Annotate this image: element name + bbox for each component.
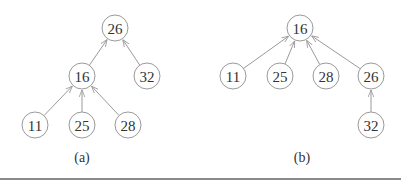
union-find-tree-diagram: 261632112528161125282632 (a)(b)	[0, 0, 401, 181]
nodes-layer: 261632112528161125282632	[22, 15, 384, 138]
tree-node-16: 16	[69, 63, 95, 89]
node-label: 32	[140, 69, 155, 85]
node-label: 25	[273, 69, 288, 85]
subfigure-caption: (a)	[74, 150, 90, 166]
parent-pointer-arrow	[307, 40, 320, 64]
tree-node-28: 28	[115, 112, 141, 138]
node-label: 11	[226, 69, 240, 85]
tree-node-26: 26	[102, 15, 128, 41]
subfigure-caption: (b)	[294, 150, 311, 166]
parent-pointer-arrow	[123, 40, 140, 66]
parent-pointer-arrow	[44, 86, 72, 116]
parent-pointer-arrow	[89, 40, 107, 66]
node-label: 28	[121, 118, 136, 134]
node-label: 28	[319, 69, 334, 85]
tree-node-32: 32	[134, 63, 160, 89]
node-label: 26	[108, 21, 124, 37]
captions-layer: (a)(b)	[74, 150, 310, 166]
node-label: 32	[364, 118, 379, 134]
tree-node-11: 11	[22, 112, 48, 138]
node-label: 11	[28, 118, 42, 134]
node-label: 16	[293, 21, 309, 37]
tree-node-25: 25	[267, 63, 293, 89]
tree-node-11: 11	[220, 63, 246, 89]
parent-pointer-arrow	[285, 41, 295, 64]
parent-pointer-arrow	[92, 86, 120, 115]
node-label: 26	[364, 69, 380, 85]
tree-node-25: 25	[69, 112, 95, 138]
tree-node-16: 16	[287, 15, 313, 41]
tree-node-28: 28	[313, 63, 339, 89]
node-label: 25	[75, 118, 90, 134]
tree-node-26: 26	[358, 63, 384, 89]
tree-node-32: 32	[358, 112, 384, 138]
node-label: 16	[75, 69, 91, 85]
